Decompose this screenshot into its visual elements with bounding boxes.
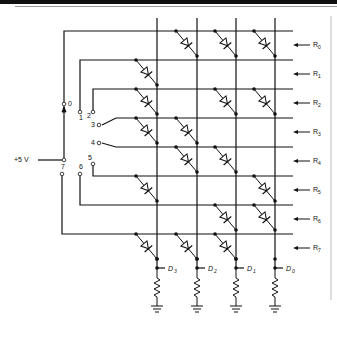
junction-dot <box>252 29 256 33</box>
diode-icon <box>254 176 275 201</box>
diode-icon <box>215 234 236 259</box>
row-label-sub: 6 <box>318 218 321 224</box>
junction-dot <box>174 116 178 120</box>
junction-dot <box>134 232 138 236</box>
junction-dot <box>252 87 256 91</box>
junction-dot <box>234 257 238 261</box>
junction-dot <box>234 228 238 232</box>
switch-label-7: 7 <box>61 163 65 170</box>
diode-icon <box>176 31 197 56</box>
switch-contact-0 <box>62 102 66 106</box>
output-label-D2: D <box>208 265 213 272</box>
junction-dot <box>155 141 159 145</box>
junction-dot <box>273 199 277 203</box>
junction-dot <box>195 170 199 174</box>
diode-icon <box>136 89 157 114</box>
junction-dot <box>213 29 217 33</box>
junction-dot <box>134 116 138 120</box>
supply-label: +5 V <box>14 156 29 163</box>
junction-dot <box>155 266 159 270</box>
ground-icon <box>151 306 163 312</box>
row-line-R5 <box>93 164 293 176</box>
junction-dot <box>155 83 159 87</box>
resistor-icon <box>154 268 160 306</box>
junction-dot <box>273 257 277 261</box>
junction-dot <box>273 266 277 270</box>
diode-icon <box>215 31 236 56</box>
row-label-sub: 7 <box>318 247 321 253</box>
diode-icon <box>215 89 236 114</box>
switch-label-1: 1 <box>79 114 83 121</box>
junction-dot <box>273 228 277 232</box>
junction-dot <box>234 54 238 58</box>
diode-icon <box>136 118 157 143</box>
diode-icon <box>215 147 236 172</box>
junction-dot <box>174 232 178 236</box>
resistor-icon <box>194 268 200 306</box>
switch-wiper-contact <box>62 158 66 162</box>
wiper-arrow-icon <box>62 107 66 112</box>
junction-dot <box>134 87 138 91</box>
arrow-left-icon <box>293 43 298 47</box>
junction-dot <box>195 141 199 145</box>
junction-dot <box>174 29 178 33</box>
junction-dot <box>155 112 159 116</box>
arrow-left-icon <box>293 130 298 134</box>
junction-dot <box>134 58 138 62</box>
switch-label-4: 4 <box>91 139 95 146</box>
junction-dot <box>252 174 256 178</box>
switch-contact-2 <box>91 110 95 114</box>
row-label-sub: 5 <box>318 189 321 195</box>
row-line-R0 <box>64 31 293 104</box>
resistor-icon <box>233 268 239 306</box>
arrow-left-icon <box>293 217 298 221</box>
switch-label-2: 2 <box>87 112 91 119</box>
row-line-R7 <box>62 174 293 234</box>
switch-label-0: 0 <box>68 100 72 107</box>
switch-contact-7 <box>60 172 64 176</box>
junction-dot <box>195 54 199 58</box>
resistor-icon <box>272 268 278 306</box>
diode-icon <box>176 234 197 259</box>
junction-dot <box>213 232 217 236</box>
output-label-D1: D <box>247 265 252 272</box>
arrow-left-icon <box>293 188 298 192</box>
diode-icon <box>136 176 157 201</box>
ground-icon <box>269 306 281 312</box>
junction-dot <box>234 170 238 174</box>
junction-dot <box>155 199 159 203</box>
junction-dot <box>273 112 277 116</box>
arrow-left-icon <box>293 159 298 163</box>
switch-contact-5 <box>91 162 95 166</box>
arrow-left-icon <box>293 101 298 105</box>
junction-dot <box>273 54 277 58</box>
junction-dot <box>252 203 256 207</box>
junction-dot <box>213 145 217 149</box>
junction-dot <box>155 257 159 261</box>
diode-icon <box>254 205 275 230</box>
row-label-sub: 0 <box>318 44 321 50</box>
output-label-D3: D <box>168 265 173 272</box>
diode-icon <box>136 60 157 85</box>
junction-dot <box>234 112 238 116</box>
junction-dot <box>174 145 178 149</box>
output-label-D0: D <box>286 265 291 272</box>
schematic: 0R01R12R23R34R45R56R67R7+5 VD3D2D1D0 <box>0 0 337 338</box>
junction-dot <box>213 87 217 91</box>
diode-icon <box>136 234 157 259</box>
row-label-sub: 2 <box>318 102 321 108</box>
row-label-sub: 3 <box>318 131 321 137</box>
row-line-R1 <box>80 60 293 112</box>
junction-dot <box>234 266 238 270</box>
diode-icon <box>176 118 197 143</box>
switch-label-5: 5 <box>88 154 92 161</box>
arrow-left-icon <box>293 72 298 76</box>
switch-contact-3 <box>97 123 101 127</box>
switch-contact-6 <box>78 172 82 176</box>
junction-dot <box>134 174 138 178</box>
diode-icon <box>176 147 197 172</box>
switch-label-6: 6 <box>79 163 83 170</box>
row-line-R6 <box>80 174 293 205</box>
switch-label-3: 3 <box>91 121 95 128</box>
diode-icon <box>215 205 236 230</box>
